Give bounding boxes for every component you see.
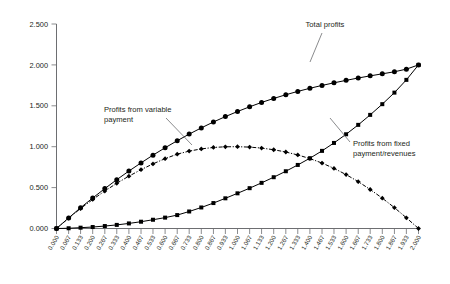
- data-point: [115, 223, 119, 227]
- data-point: [175, 138, 180, 143]
- data-point: [356, 75, 361, 80]
- data-point: [271, 147, 276, 152]
- data-point: [308, 156, 312, 160]
- data-point: [295, 153, 300, 158]
- data-point: [223, 144, 228, 149]
- data-point: [199, 147, 204, 152]
- annotation-variable-payment-label-line2: payment: [104, 115, 134, 124]
- data-point: [91, 225, 95, 229]
- data-point: [150, 153, 155, 158]
- data-point: [332, 141, 336, 145]
- data-point: [79, 226, 83, 230]
- data-point: [320, 161, 325, 166]
- data-point: [211, 201, 215, 205]
- data-point: [163, 156, 168, 161]
- data-point: [248, 186, 252, 190]
- data-point: [127, 174, 132, 179]
- y-axis-ticks: [52, 24, 57, 229]
- data-point: [368, 113, 372, 117]
- data-point: [296, 163, 300, 167]
- annotation-fixed-payment: Profits from fixed payment/revenues: [330, 118, 416, 158]
- data-point: [259, 100, 264, 105]
- x-axis-tick-labels: 0.0000.0670.1330.2000.2670.3330.4000.467…: [46, 234, 422, 251]
- annotation-total-profits: Total profits: [306, 20, 345, 62]
- annotation-fixed-payment-label-line2: payment/revenues: [353, 149, 416, 158]
- data-point: [211, 119, 216, 124]
- data-point: [320, 83, 325, 88]
- annotation-total-profits-leader: [310, 33, 322, 62]
- profits-vs-bonus-chart: 0.0000.5001.0001.5002.0002.500 0.0000.06…: [0, 0, 450, 284]
- data-point: [163, 145, 168, 150]
- data-point: [163, 216, 167, 220]
- data-point: [139, 220, 143, 224]
- data-point: [259, 146, 264, 151]
- data-point: [67, 226, 71, 230]
- data-point: [283, 150, 288, 155]
- x-axis: 0.0000.0670.1330.2000.2670.3330.4000.467…: [46, 229, 422, 251]
- data-point: [331, 80, 336, 85]
- data-point: [55, 227, 59, 231]
- data-point: [187, 149, 192, 154]
- annotation-total-profits-label: Total profits: [306, 20, 345, 29]
- y-tick-label: 0.000: [30, 224, 49, 233]
- data-point: [247, 104, 252, 109]
- data-point: [356, 123, 360, 127]
- data-point: [272, 175, 276, 179]
- data-point: [283, 92, 288, 97]
- data-point: [271, 96, 276, 101]
- data-point: [139, 160, 144, 165]
- data-point: [392, 69, 397, 74]
- data-point: [307, 86, 312, 91]
- data-point: [151, 218, 155, 222]
- data-point: [320, 149, 324, 153]
- data-point: [223, 114, 228, 119]
- data-point: [139, 167, 144, 172]
- annotation-fixed-payment-label-line1: Profits from fixed: [353, 139, 410, 148]
- data-point: [404, 78, 408, 82]
- data-point: [284, 169, 288, 173]
- annotation-variable-payment-label-line1: Profits from variable: [104, 105, 172, 114]
- data-point: [235, 109, 240, 114]
- data-point: [175, 152, 180, 157]
- data-point: [211, 145, 216, 150]
- series-line-1: [57, 147, 419, 229]
- data-point: [380, 71, 385, 76]
- x-tick-label: 2.000: [408, 234, 422, 251]
- data-point: [332, 166, 337, 171]
- data-point: [236, 191, 240, 195]
- data-point: [344, 78, 349, 83]
- data-point: [126, 169, 131, 174]
- y-tick-label: 0.500: [30, 183, 49, 192]
- data-point: [417, 63, 421, 67]
- chart-figure: 0.0000.5001.0001.5002.0002.500 0.0000.06…: [0, 0, 450, 284]
- y-tick-label: 1.000: [30, 142, 49, 151]
- y-tick-label: 2.500: [30, 20, 49, 29]
- data-point: [404, 67, 409, 72]
- data-point: [199, 125, 204, 130]
- data-point: [103, 224, 107, 228]
- data-point: [344, 172, 349, 177]
- data-point: [392, 91, 396, 95]
- data-point: [127, 221, 131, 225]
- data-point: [151, 161, 156, 166]
- data-point: [199, 205, 203, 209]
- data-point: [247, 145, 252, 150]
- data-point: [187, 132, 192, 137]
- y-tick-label: 2.000: [30, 61, 49, 70]
- data-point: [380, 102, 384, 106]
- data-point: [187, 209, 191, 213]
- data-point: [223, 196, 227, 200]
- data-point: [235, 144, 240, 149]
- y-tick-label: 1.500: [30, 101, 49, 110]
- data-point: [175, 213, 179, 217]
- y-axis: 0.0000.5001.0001.5002.0002.500: [30, 20, 57, 234]
- data-point: [368, 73, 373, 78]
- y-axis-tick-labels: 0.0000.5001.0001.5002.0002.500: [30, 20, 49, 234]
- data-point: [260, 181, 264, 185]
- x-axis-ticks: [57, 229, 419, 235]
- data-point: [295, 89, 300, 94]
